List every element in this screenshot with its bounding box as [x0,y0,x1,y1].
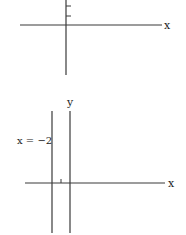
top-x-axis-label: x [164,19,171,32]
top-graph: x [20,0,171,75]
bottom-y-axis-label: y [66,96,74,109]
bottom-x-axis-label: x [168,177,175,190]
line-equation-label: x = −2 [17,135,52,146]
bottom-graph: y x x = −2 [17,96,175,233]
figure: x y x x = −2 [0,0,186,235]
